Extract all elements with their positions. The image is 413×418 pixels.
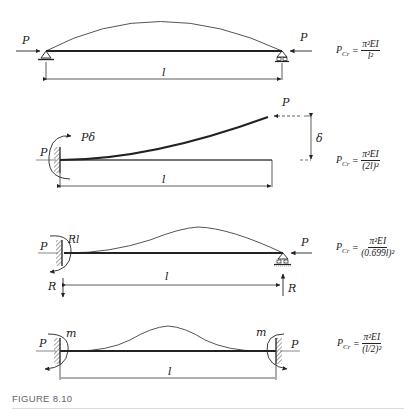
length-label: l xyxy=(162,66,166,79)
roller-support-icon xyxy=(275,51,289,62)
case-pinned-pinned: P P l xyxy=(16,22,312,81)
moment-label: m xyxy=(256,326,266,339)
pin-support-icon xyxy=(38,51,54,60)
load-label: P xyxy=(300,236,309,249)
load-label: P xyxy=(39,240,48,253)
critical-load-formula: PCr = π²EIl² xyxy=(336,39,380,62)
deflection-label: δ xyxy=(316,132,323,145)
length-label: l xyxy=(168,365,172,378)
buckled-shape xyxy=(46,22,282,52)
length-label: l xyxy=(165,270,169,283)
critical-load-formula: PCr = π²EI(l/2)² xyxy=(337,332,381,355)
moment-label: Rl xyxy=(67,233,79,245)
load-label: P xyxy=(281,96,290,109)
critical-load-formula: PCr = π²EI(2l)² xyxy=(336,149,380,172)
case-fixed-pinned: Rl P R P R l xyxy=(38,227,312,297)
reaction-label: R xyxy=(287,282,296,295)
length-label: l xyxy=(162,173,166,186)
column-buckling-diagram: P P l Pδ P P δ l xyxy=(0,0,413,418)
critical-load-formula: PCr = π²EI(0.699l)² xyxy=(336,236,394,259)
moment-label: m xyxy=(66,327,76,340)
moment-label: Pδ xyxy=(80,131,95,144)
caption-divider xyxy=(12,408,404,409)
case-fixed-free: Pδ P P δ l xyxy=(36,96,323,188)
figure-caption: FIGURE 8.10 xyxy=(12,393,72,404)
load-label: P xyxy=(38,337,47,350)
load-label: P xyxy=(39,146,48,159)
load-label: P xyxy=(299,31,308,44)
load-label: P xyxy=(21,34,30,47)
roller-support-icon xyxy=(274,253,291,266)
case-fixed-fixed: m P m P l xyxy=(36,326,300,380)
buckled-shape xyxy=(75,326,260,351)
load-label: P xyxy=(290,338,299,351)
buckled-shape xyxy=(67,227,283,253)
reaction-label: R xyxy=(47,280,56,293)
